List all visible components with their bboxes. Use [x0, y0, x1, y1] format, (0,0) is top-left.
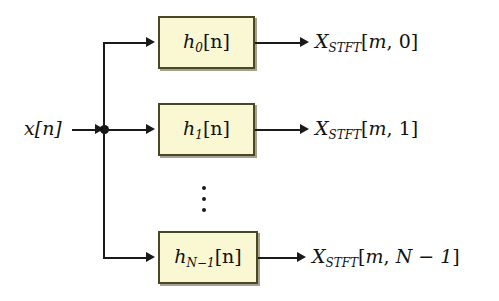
vertical-bus-wire: [103, 42, 105, 259]
branch-1-output-wire: [255, 129, 303, 131]
output-n-index-k: N − 1: [396, 245, 453, 267]
branch-1-output-arrow-head-icon: [300, 124, 309, 134]
output-label-1: XSTFT[m, 1]: [315, 119, 418, 141]
filter-block-1-label: h1[n]: [183, 119, 230, 141]
filter-n-subscript: N−1: [186, 255, 214, 269]
branch-1-input-wire: [103, 129, 149, 131]
input-signal-text: x[n]: [24, 117, 62, 139]
output-n-base: X: [312, 245, 326, 267]
filter-0-subscript: 0: [195, 40, 203, 54]
output-label-0: XSTFT[m, 0]: [315, 32, 418, 54]
filter-n-base: h: [174, 245, 186, 267]
output-0-index-k: 0: [399, 30, 411, 52]
filter-block-1[interactable]: h1[n]: [158, 103, 255, 156]
output-0-subscript: STFT: [329, 41, 362, 55]
ellipsis-dot: [202, 186, 206, 190]
output-0-base: X: [315, 30, 329, 52]
output-1-subscript: STFT: [329, 128, 362, 142]
branch-1-input-arrow-head-icon: [146, 124, 155, 134]
branch-0-output-arrow-head-icon: [300, 37, 309, 47]
output-1-base: X: [315, 117, 329, 139]
output-n-subscript: STFT: [326, 256, 359, 270]
output-n-index-m: m: [366, 245, 384, 267]
output-0-separator: ,: [387, 30, 399, 52]
output-0-index-m: m: [369, 30, 387, 52]
stft-filter-bank-diagram: x[n] h0[n] XSTFT[m, 0] h1[n] XSTFT[m, 1]: [0, 0, 499, 301]
output-n-separator: ,: [384, 245, 396, 267]
output-0-bracket-close: ]: [411, 30, 418, 52]
filter-block-n-label: hN−1[n]: [174, 247, 242, 269]
branch-0-output-wire: [255, 42, 303, 44]
branch-n-input-wire: [103, 257, 149, 259]
filter-1-bracket: [n]: [203, 117, 230, 139]
branch-0-input-arrow-head-icon: [146, 37, 155, 47]
branch-n-input-arrow-head-icon: [146, 252, 155, 262]
filter-0-bracket: [n]: [203, 30, 230, 52]
filter-block-n[interactable]: hN−1[n]: [158, 231, 258, 284]
filter-1-subscript: 1: [195, 127, 203, 141]
output-label-n: XSTFT[m, N − 1]: [312, 247, 460, 269]
filter-block-0-label: h0[n]: [183, 32, 230, 54]
input-signal-label: x[n]: [24, 119, 62, 138]
output-n-bracket-open: [: [358, 245, 365, 267]
output-n-bracket-close: ]: [452, 245, 459, 267]
ellipsis-dot: [202, 208, 206, 212]
output-1-index-m: m: [369, 117, 387, 139]
ellipsis-dot: [202, 197, 206, 201]
output-1-index-k: 1: [399, 117, 411, 139]
filter-block-0[interactable]: h0[n]: [158, 16, 255, 69]
branch-0-input-wire: [103, 42, 149, 44]
branch-n-output-arrow-head-icon: [297, 252, 306, 262]
output-1-bracket-close: ]: [411, 117, 418, 139]
vertical-ellipsis-icon: [197, 186, 211, 212]
filter-n-bracket: [n]: [215, 245, 242, 267]
output-1-separator: ,: [387, 117, 399, 139]
filter-1-base: h: [183, 117, 195, 139]
branch-n-output-wire: [258, 257, 300, 259]
filter-0-base: h: [183, 30, 195, 52]
output-0-bracket-open: [: [361, 30, 368, 52]
output-1-bracket-open: [: [361, 117, 368, 139]
